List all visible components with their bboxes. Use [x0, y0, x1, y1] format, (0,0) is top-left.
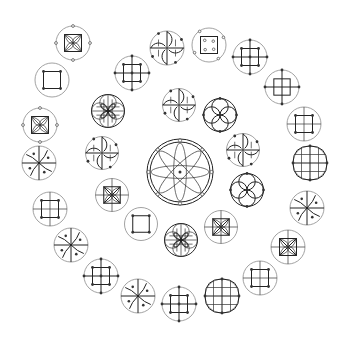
- node-dot: [40, 216, 43, 219]
- node-dot: [151, 55, 154, 58]
- node-dot: [79, 238, 82, 241]
- inner-ring-glyph: [86, 137, 119, 170]
- node-dot: [174, 61, 177, 64]
- node-dot: [179, 171, 182, 174]
- node-dot: [201, 193, 204, 196]
- node-dot: [202, 114, 205, 117]
- node-dot: [156, 148, 159, 151]
- node-dot: [292, 162, 295, 165]
- outer-ring-glyph: [232, 39, 269, 76]
- node-dot: [192, 95, 195, 98]
- node-dot: [92, 138, 95, 141]
- node-dot: [178, 320, 181, 323]
- node-dot: [315, 201, 318, 204]
- node-dot: [186, 118, 189, 121]
- outer-ring-glyph: [83, 258, 120, 295]
- node-dot: [186, 311, 189, 314]
- node-dot: [326, 162, 329, 165]
- node-dot: [198, 30, 201, 33]
- node-dot: [114, 72, 117, 75]
- node-dot: [131, 231, 134, 234]
- node-dot: [250, 268, 253, 271]
- inner-ring-glyph: [165, 224, 198, 257]
- node-dot: [59, 87, 62, 90]
- node-dot: [246, 172, 249, 175]
- node-dot: [148, 72, 151, 75]
- outer-ring-glyph: [114, 55, 151, 92]
- node-dot: [193, 51, 196, 54]
- node-dot: [311, 114, 314, 117]
- node-dot: [222, 36, 225, 39]
- node-dot: [264, 86, 267, 89]
- node-dot: [64, 235, 67, 238]
- node-dot: [131, 72, 134, 75]
- node-dot: [262, 189, 265, 192]
- outer-ring-glyph: [161, 286, 198, 323]
- inner-ring-glyph: [125, 208, 158, 241]
- node-dot: [297, 212, 300, 215]
- node-dot: [217, 57, 220, 60]
- outer-ring-glyph: [35, 63, 69, 97]
- node-dot: [100, 275, 103, 278]
- node-dot: [131, 55, 134, 58]
- node-dot: [178, 139, 181, 142]
- node-dot: [91, 283, 94, 286]
- node-dot: [249, 73, 252, 76]
- node-dot: [56, 124, 59, 127]
- node-dot: [178, 286, 181, 289]
- node-dot: [212, 40, 215, 43]
- node-dot: [57, 216, 60, 219]
- inner-ring-glyph: [96, 179, 129, 212]
- node-dot: [235, 114, 238, 117]
- center-rosette: [147, 139, 213, 205]
- node-dot: [281, 103, 284, 106]
- node-dot: [157, 32, 160, 35]
- node-dot: [148, 214, 151, 217]
- node-dot: [256, 140, 259, 143]
- ornament-diagram: [0, 0, 347, 345]
- node-dot: [212, 48, 215, 51]
- node-dot: [39, 141, 42, 144]
- node-dot: [156, 193, 159, 196]
- node-dot: [61, 249, 64, 252]
- node-dot: [47, 156, 50, 159]
- node-dot: [229, 189, 232, 192]
- node-dot: [219, 130, 222, 133]
- node-dot: [178, 202, 181, 205]
- node-dot: [246, 205, 249, 208]
- outer-ring-glyph: [243, 261, 277, 295]
- outer-ring-glyph: [121, 279, 155, 313]
- node-dot: [39, 107, 42, 110]
- node-dot: [131, 214, 134, 217]
- diagram-canvas: [0, 0, 347, 345]
- node-dot: [203, 39, 206, 42]
- node-dot: [108, 266, 111, 269]
- node-dot: [59, 70, 62, 73]
- node-dot: [72, 59, 75, 62]
- node-dot: [122, 63, 125, 66]
- outer-ring-glyph: [54, 228, 88, 262]
- node-dot: [57, 199, 60, 202]
- node-dot: [204, 295, 207, 298]
- outer-ring-glyph: [150, 31, 184, 65]
- node-dot: [178, 303, 181, 306]
- inner-ring-glyph: [163, 89, 196, 122]
- outer-ring-glyph: [264, 69, 301, 106]
- node-dot: [164, 112, 167, 115]
- outer-ring-glyph: [204, 278, 241, 315]
- node-dot: [147, 170, 150, 173]
- node-dot: [300, 198, 303, 201]
- outer-ring-glyph: [22, 146, 56, 180]
- node-dot: [32, 153, 35, 156]
- node-dot: [169, 294, 172, 297]
- node-dot: [232, 56, 235, 59]
- node-dot: [43, 171, 46, 174]
- node-dot: [311, 216, 314, 219]
- node-dot: [87, 160, 90, 163]
- outer-ring-glyph: [290, 191, 324, 225]
- node-dot: [40, 199, 43, 202]
- outer-ring-glyph: [271, 230, 305, 264]
- node-dot: [250, 163, 253, 166]
- outer-ring-glyph: [292, 145, 329, 182]
- node-dot: [257, 47, 260, 50]
